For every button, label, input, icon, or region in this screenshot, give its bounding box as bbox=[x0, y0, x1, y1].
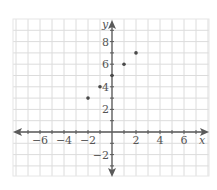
data-point bbox=[86, 96, 90, 100]
coordinate-plane: −6−4−2246−22468 x y bbox=[0, 0, 217, 190]
grid-border bbox=[13, 19, 209, 176]
x-tick-label: 6 bbox=[181, 134, 188, 147]
x-tick-label: −4 bbox=[56, 134, 72, 147]
data-point bbox=[134, 51, 138, 55]
y-tick-label: 2 bbox=[102, 103, 109, 116]
data-point bbox=[98, 85, 102, 89]
data-point bbox=[110, 74, 114, 78]
y-tick-label: 4 bbox=[102, 81, 109, 94]
tick-labels: −6−4−2246−22468 bbox=[32, 36, 188, 162]
y-axis-label: y bbox=[101, 18, 109, 31]
x-axis-label: x bbox=[199, 134, 206, 147]
grid-lines bbox=[13, 19, 209, 176]
y-tick-label: −2 bbox=[93, 149, 109, 162]
y-tick-label: 6 bbox=[102, 58, 109, 71]
x-tick-label: 4 bbox=[157, 134, 164, 147]
x-tick-label: 2 bbox=[133, 134, 140, 147]
x-tick-label: −6 bbox=[32, 134, 48, 147]
x-tick-label: −2 bbox=[80, 134, 96, 147]
y-tick-label: 8 bbox=[102, 36, 109, 49]
data-point bbox=[122, 62, 126, 66]
